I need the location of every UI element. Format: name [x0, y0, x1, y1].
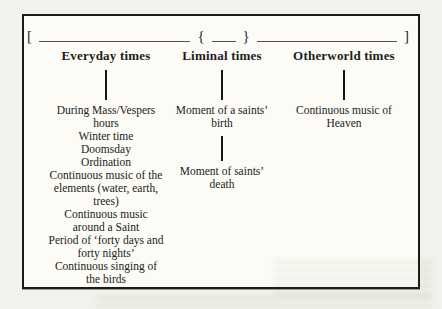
column-title: Otherworld times [293, 49, 395, 63]
item-line: Moment of a saints’ [176, 104, 268, 117]
item-line: forty nights’ [49, 247, 164, 260]
item-line: During Mass/Vespers [49, 104, 164, 117]
item-line: Ordination [49, 156, 164, 169]
connector-line [343, 70, 345, 100]
item-line: birth [176, 117, 268, 130]
time-column: Otherworld timesContinuous music ofHeave… [282, 49, 406, 130]
item-line: Continuous music of [296, 104, 392, 117]
item-line: Winter time [49, 130, 164, 143]
item-line: Moment of saints’ [180, 165, 264, 178]
item-line: elements (water, earth, [49, 182, 164, 195]
item-line: around a Saint [49, 221, 164, 234]
list-item: Continuous music of theelements (water, … [49, 169, 164, 208]
item-group: Moment of saints’death [180, 165, 264, 191]
item-group: Moment of a saints’birth [176, 104, 268, 130]
list-item: Continuous musicaround a Saint [49, 208, 164, 234]
connector-line [221, 136, 223, 161]
connector-line [221, 70, 223, 100]
item-line: trees) [49, 195, 164, 208]
item-line: the birds [49, 273, 164, 286]
list-item: Moment of a saints’birth [176, 104, 268, 130]
column-title: Liminal times [182, 49, 262, 63]
columns: Everyday timesDuring Mass/VespershoursWi… [24, 16, 418, 287]
item-line: hours [49, 117, 164, 130]
column-title: Everyday times [61, 49, 150, 63]
item-line: Period of ‘forty days and [49, 234, 164, 247]
scanned-figure-page: [ { } ] Everyday timesDuring Mass/Vesper… [0, 0, 442, 309]
list-item: Doomsday [49, 143, 164, 156]
list-item: Continuous music ofHeaven [296, 104, 392, 130]
scan-bleedthrough-artifact [96, 292, 432, 307]
list-item: During Mass/Vespershours [49, 104, 164, 130]
connector-line [105, 70, 107, 100]
list-item: Period of ‘forty days andforty nights’ [49, 234, 164, 260]
item-line: Doomsday [49, 143, 164, 156]
list-item: Continuous singing ofthe birds [49, 260, 164, 286]
item-line: Continuous music of the [49, 169, 164, 182]
item-line: Continuous music [49, 208, 164, 221]
list-item: Winter time [49, 130, 164, 143]
item-group: Continuous music ofHeaven [296, 104, 392, 130]
time-column: Liminal timesMoment of a saints’birthMom… [164, 49, 280, 191]
item-group: During Mass/VespershoursWinter timeDooms… [49, 104, 164, 286]
item-line: Continuous singing of [49, 260, 164, 273]
item-line: Heaven [296, 117, 392, 130]
list-item: Ordination [49, 156, 164, 169]
figure-box: [ { } ] Everyday timesDuring Mass/Vesper… [22, 14, 420, 289]
item-line: death [180, 178, 264, 191]
list-item: Moment of saints’death [180, 165, 264, 191]
